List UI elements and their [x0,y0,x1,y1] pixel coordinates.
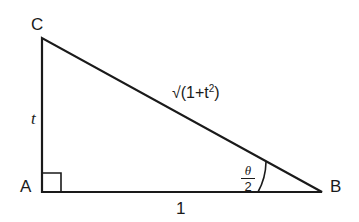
radical-sign: √ [172,84,181,101]
side-ab-label: 1 [176,200,185,217]
triangle-lines [0,0,359,222]
right-triangle-diagram: C A B t 1 √(1+t2) θ 2 [0,0,359,222]
vertex-b-label: B [330,178,341,195]
angle-arc [258,162,266,192]
side-ac-label: t [31,110,36,127]
side-bc-label: √(1+t2) [172,84,220,101]
vertex-c-label: C [31,16,43,33]
angle-b-label: θ 2 [241,164,255,193]
vertex-a-label: A [20,178,31,195]
right-angle-marker [42,173,61,192]
